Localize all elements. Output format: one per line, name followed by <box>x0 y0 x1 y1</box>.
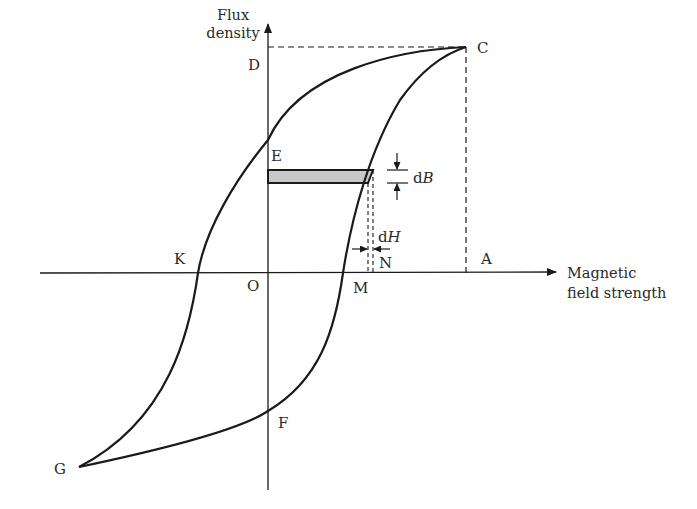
label-dH: dH <box>378 228 402 246</box>
hysteresis-diagram: Flux density Magnetic field strength D C… <box>0 0 697 509</box>
x-axis-title-line1: Magnetic <box>567 265 636 281</box>
y-axis-title-line2: density <box>206 25 260 41</box>
shaded-strip-dB <box>268 170 373 183</box>
label-D: D <box>248 56 260 74</box>
x-axis <box>40 272 556 273</box>
label-N: N <box>379 254 392 272</box>
label-E: E <box>271 147 282 165</box>
label-G: G <box>54 460 66 478</box>
label-F: F <box>278 414 288 432</box>
label-dB: dB <box>413 169 434 187</box>
label-K: K <box>174 250 186 268</box>
label-M: M <box>353 279 368 297</box>
y-axis-title-line1: Flux <box>217 7 249 23</box>
descending-branch-curve <box>79 47 466 467</box>
label-O: O <box>247 277 259 295</box>
x-axis-title-line2: field strength <box>567 285 666 301</box>
ascending-branch-curve <box>79 47 466 467</box>
label-A: A <box>480 250 492 268</box>
label-C: C <box>477 39 488 57</box>
